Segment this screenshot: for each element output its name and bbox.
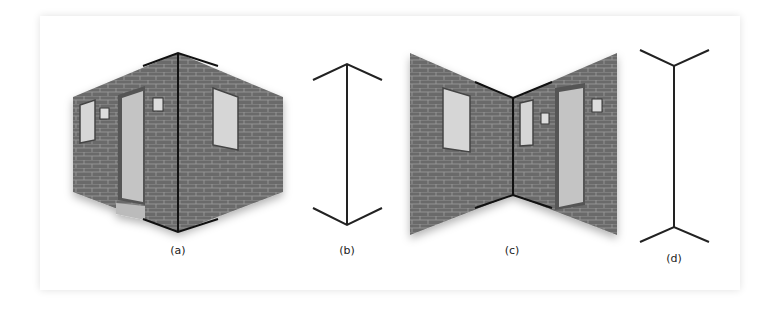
caption-d: (d) <box>654 252 694 265</box>
caption-c: (c) <box>492 244 532 257</box>
caption-a: (a) <box>158 244 198 257</box>
panel-b-arrow-line <box>313 64 382 225</box>
caption-b: (b) <box>327 244 367 257</box>
panel-d-fins-line <box>640 50 709 242</box>
